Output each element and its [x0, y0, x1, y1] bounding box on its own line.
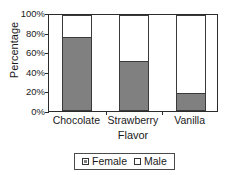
y-tick-label: 60% [15, 48, 45, 57]
y-tick-label: 100% [15, 9, 45, 18]
bars-layer [49, 15, 217, 111]
bar-segment-male[interactable] [176, 15, 206, 95]
bar-segment-male[interactable] [119, 15, 149, 63]
y-tick-label: 0% [15, 107, 45, 116]
plot-area [48, 14, 218, 112]
bar-segment-female[interactable] [176, 93, 206, 111]
y-tick-label: 40% [15, 68, 45, 77]
y-axis-tick [45, 14, 49, 15]
y-axis-tick [45, 53, 49, 54]
bar-stack[interactable] [119, 15, 149, 111]
x-tick-label: Vanilla [161, 114, 218, 127]
bar-segment-male[interactable] [62, 15, 92, 39]
legend-entry[interactable]: Female [82, 156, 127, 167]
x-tick-label: Chocolate [48, 114, 105, 127]
y-axis-tick [45, 73, 49, 74]
x-axis-tick-labels: ChocolateStrawberryVanilla [48, 114, 218, 130]
x-tick-label: Strawberry [105, 114, 162, 127]
x-axis-title: Flavor [48, 129, 218, 141]
stacked-bar-chart: Percentage 0%20%40%60%80%100% ChocolateS… [0, 0, 247, 175]
bar-segment-female[interactable] [62, 37, 92, 111]
y-axis-tick [45, 34, 49, 35]
legend-swatch-icon [82, 158, 89, 165]
legend-label: Male [144, 156, 167, 167]
y-axis-tick [45, 112, 49, 113]
y-tick-label: 80% [15, 29, 45, 38]
bar-stack[interactable] [62, 15, 92, 111]
y-tick-label: 20% [15, 87, 45, 96]
legend-entry[interactable]: Male [134, 156, 167, 167]
legend-swatch-icon [134, 158, 141, 165]
bar-segment-female[interactable] [119, 61, 149, 111]
y-axis-tick-labels: 0%20%40%60%80%100% [14, 0, 45, 175]
chart-legend: FemaleMale [74, 153, 175, 170]
legend-label: Female [92, 156, 127, 167]
y-axis-tick [45, 92, 49, 93]
bar-stack[interactable] [176, 15, 206, 111]
